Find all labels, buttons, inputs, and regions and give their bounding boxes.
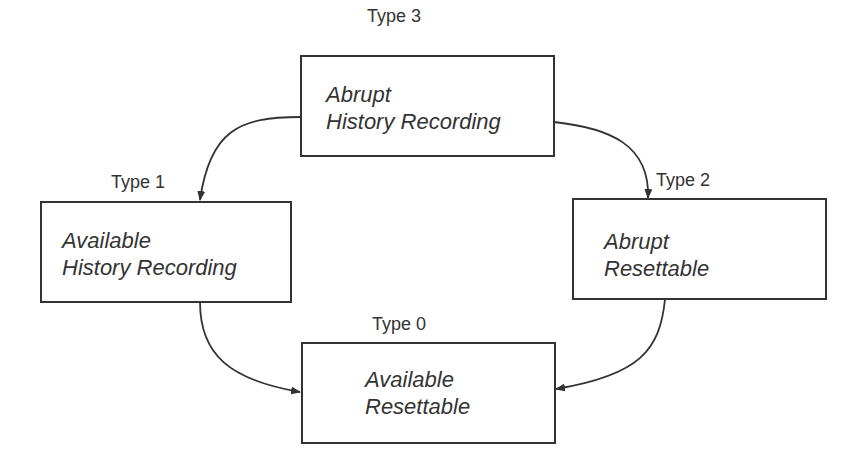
type2-line2: Resettable bbox=[604, 255, 709, 282]
type1-line2: History Recording bbox=[62, 254, 237, 281]
type0-label: Type 0 bbox=[372, 314, 426, 335]
type0-line2: Resettable bbox=[365, 393, 470, 420]
type2-line1: Abrupt bbox=[604, 228, 669, 255]
node-type0: Available Resettable bbox=[301, 342, 556, 444]
edge-type3-to-type2 bbox=[554, 122, 648, 198]
edge-type1-to-type0 bbox=[200, 302, 300, 392]
type0-line1: Available bbox=[365, 366, 454, 393]
type3-label: Type 3 bbox=[367, 6, 421, 27]
type3-line2: History Recording bbox=[326, 108, 501, 135]
node-type1: Available History Recording bbox=[40, 201, 292, 303]
type2-label: Type 2 bbox=[656, 170, 710, 191]
node-type3: Abrupt History Recording bbox=[300, 55, 555, 157]
edge-type2-to-type0 bbox=[556, 299, 665, 389]
node-type2: Abrupt Resettable bbox=[572, 198, 827, 300]
edge-type3-to-type1 bbox=[200, 117, 300, 200]
type1-label: Type 1 bbox=[111, 172, 165, 193]
type1-line1: Available bbox=[62, 227, 151, 254]
type3-line1: Abrupt bbox=[326, 81, 391, 108]
